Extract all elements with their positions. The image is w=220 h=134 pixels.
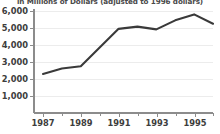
x-tick-label-1991: 1991 bbox=[107, 118, 130, 128]
y-tick-label-3000: 3,000 bbox=[2, 57, 28, 67]
y-tick-label-5000: 5,000 bbox=[2, 23, 28, 33]
y-axis bbox=[30, 9, 34, 113]
x-tick-label-1987: 1987 bbox=[31, 118, 54, 128]
line-chart-plot: 6,000 5,000 4,000 3,000 2,000 1,000 1987… bbox=[0, 0, 220, 134]
gridlines bbox=[34, 11, 213, 96]
y-tick-label-6000: 6,000 bbox=[2, 6, 28, 16]
y-tick-label-1000: 1,000 bbox=[2, 91, 28, 101]
x-tick-label-1989: 1989 bbox=[69, 118, 92, 128]
data-series-line bbox=[43, 14, 213, 74]
x-tick-label-1995: 1995 bbox=[183, 118, 206, 128]
x-axis bbox=[34, 113, 213, 117]
y-tick-label-2000: 2,000 bbox=[2, 74, 28, 84]
x-tick-labels: 1987 1989 1991 1993 1995 bbox=[31, 118, 206, 128]
y-tick-labels: 6,000 5,000 4,000 3,000 2,000 1,000 bbox=[2, 6, 28, 101]
y-tick-label-4000: 4,000 bbox=[2, 40, 28, 50]
chart-container: in Millions of Dollars (adjusted to 1996… bbox=[0, 0, 220, 134]
x-tick-label-1993: 1993 bbox=[145, 118, 168, 128]
